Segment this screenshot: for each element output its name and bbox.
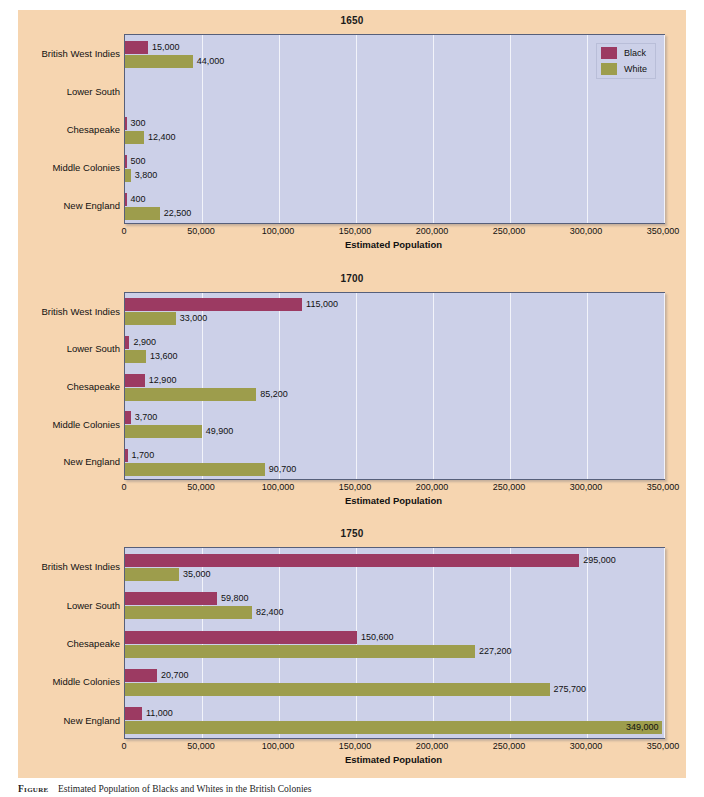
bar-value-label: 227,200 bbox=[479, 646, 512, 657]
x-tick-label: 200,000 bbox=[416, 482, 449, 492]
category-label: Lower South bbox=[67, 600, 120, 611]
x-tick-label: 350,000 bbox=[647, 741, 680, 751]
category-label: Middle Colonies bbox=[52, 419, 120, 430]
bar-value-label: 3,700 bbox=[135, 412, 158, 423]
x-tick-label: 250,000 bbox=[493, 226, 526, 236]
category-label: Chesapeake bbox=[67, 381, 120, 392]
category-label: British West Indies bbox=[42, 48, 121, 59]
gridline bbox=[587, 35, 588, 223]
x-tick-label: 100,000 bbox=[262, 226, 295, 236]
gridline bbox=[202, 35, 203, 223]
category-label: British West Indies bbox=[42, 561, 121, 572]
bar-black bbox=[125, 669, 157, 682]
bar-value-label: 3,800 bbox=[135, 170, 158, 181]
bar-white bbox=[125, 388, 256, 401]
gridline bbox=[510, 548, 511, 738]
x-tick-label: 150,000 bbox=[339, 482, 372, 492]
bar-black bbox=[125, 554, 579, 567]
chart-panel-1650: 1650 15,00044,00030012,4005003,80040022,… bbox=[18, 10, 686, 268]
x-axis-title-1650: Estimated Population bbox=[124, 239, 663, 250]
gridline bbox=[433, 293, 434, 479]
bar-black bbox=[125, 592, 217, 605]
x-axis-1750: 050,000100,000150,000200,000250,000300,0… bbox=[124, 741, 663, 767]
bar-black bbox=[125, 41, 148, 54]
bar-value-label: 1,700 bbox=[132, 450, 155, 461]
bar-value-label: 349,000 bbox=[626, 722, 659, 733]
bar-value-label: 20,700 bbox=[161, 670, 189, 681]
caption-label: Figure bbox=[18, 784, 49, 794]
bar-black bbox=[125, 193, 127, 206]
x-tick-label: 250,000 bbox=[493, 482, 526, 492]
bar-white bbox=[125, 463, 265, 476]
bar-black bbox=[125, 336, 129, 349]
bar-value-label: 44,000 bbox=[197, 56, 225, 67]
figure-caption: Figure Estimated Population of Blacks an… bbox=[18, 784, 686, 794]
x-tick-label: 350,000 bbox=[647, 226, 680, 236]
chart-panel-1750: 1750 295,00035,00059,80082,400150,600227… bbox=[18, 523, 686, 778]
gridline bbox=[510, 35, 511, 223]
gridline bbox=[356, 548, 357, 738]
bar-value-label: 90,700 bbox=[269, 464, 297, 475]
bar-value-label: 150,600 bbox=[361, 632, 394, 643]
x-tick-label: 150,000 bbox=[339, 741, 372, 751]
gridline bbox=[510, 293, 511, 479]
legend-label-white: White bbox=[624, 64, 647, 74]
x-axis-title-1750: Estimated Population bbox=[124, 754, 663, 765]
x-axis-1650: 050,000100,000150,000200,000250,000300,0… bbox=[124, 226, 663, 252]
bar-value-label: 11,000 bbox=[146, 708, 173, 719]
bar-white bbox=[125, 312, 176, 325]
bar-value-label: 13,600 bbox=[150, 351, 178, 362]
bar-white bbox=[125, 683, 550, 696]
bar-value-label: 12,400 bbox=[148, 132, 176, 143]
category-label: British West Indies bbox=[42, 306, 121, 317]
bar-value-label: 2,900 bbox=[133, 337, 156, 348]
bar-white bbox=[125, 568, 179, 581]
x-tick-label: 200,000 bbox=[416, 226, 449, 236]
bars-1650: 15,00044,00030012,4005003,80040022,500 bbox=[125, 35, 664, 223]
gridline bbox=[433, 548, 434, 738]
chart-legend: Black White bbox=[596, 43, 656, 79]
legend-item-white: White bbox=[601, 63, 647, 75]
x-tick-label: 0 bbox=[121, 226, 126, 236]
category-label: Middle Colonies bbox=[52, 162, 120, 173]
x-tick-label: 300,000 bbox=[570, 741, 603, 751]
chart-title-1700: 1700 bbox=[18, 273, 686, 284]
gridline bbox=[587, 293, 588, 479]
bar-value-label: 115,000 bbox=[306, 299, 338, 310]
figure-estimated-population: 1650 15,00044,00030012,4005003,80040022,… bbox=[0, 0, 704, 797]
bar-value-label: 12,900 bbox=[149, 375, 177, 386]
bar-black bbox=[125, 155, 127, 168]
category-label: Lower South bbox=[67, 86, 120, 97]
bar-value-label: 400 bbox=[131, 194, 146, 205]
bar-value-label: 35,000 bbox=[183, 569, 211, 580]
bars-1750: 295,00035,00059,80082,400150,600227,2002… bbox=[125, 548, 664, 738]
chart-panel-1700: 1700 115,00033,0002,90013,60012,90085,20… bbox=[18, 268, 686, 523]
gridline bbox=[279, 35, 280, 223]
bar-white bbox=[125, 55, 193, 68]
bar-value-label: 15,000 bbox=[152, 42, 180, 53]
bar-value-label: 33,000 bbox=[180, 313, 208, 324]
legend-swatch-black-icon bbox=[601, 47, 617, 59]
gridline bbox=[664, 35, 665, 223]
bar-value-label: 300 bbox=[131, 118, 146, 129]
x-tick-label: 50,000 bbox=[187, 741, 215, 751]
x-tick-label: 100,000 bbox=[262, 741, 295, 751]
bar-white bbox=[125, 425, 202, 438]
x-tick-label: 250,000 bbox=[493, 741, 526, 751]
x-tick-label: 150,000 bbox=[339, 226, 372, 236]
bar-black bbox=[125, 117, 127, 130]
x-axis-title-1700: Estimated Population bbox=[124, 495, 663, 506]
plot-area-1650: 15,00044,00030012,4005003,80040022,500 B… bbox=[124, 34, 665, 224]
bar-black bbox=[125, 449, 128, 462]
bar-value-label: 59,800 bbox=[221, 593, 249, 604]
bar-black bbox=[125, 298, 302, 311]
x-tick-label: 50,000 bbox=[187, 226, 215, 236]
legend-swatch-white-icon bbox=[601, 63, 617, 75]
plot-area-1750: 295,00035,00059,80082,400150,600227,2002… bbox=[124, 547, 665, 739]
bar-white bbox=[125, 350, 146, 363]
bar-value-label: 295,000 bbox=[583, 555, 616, 566]
category-label: New England bbox=[63, 456, 120, 467]
category-label: New England bbox=[63, 715, 120, 726]
gridline bbox=[279, 548, 280, 738]
chart-title-1650: 1650 bbox=[18, 15, 686, 26]
